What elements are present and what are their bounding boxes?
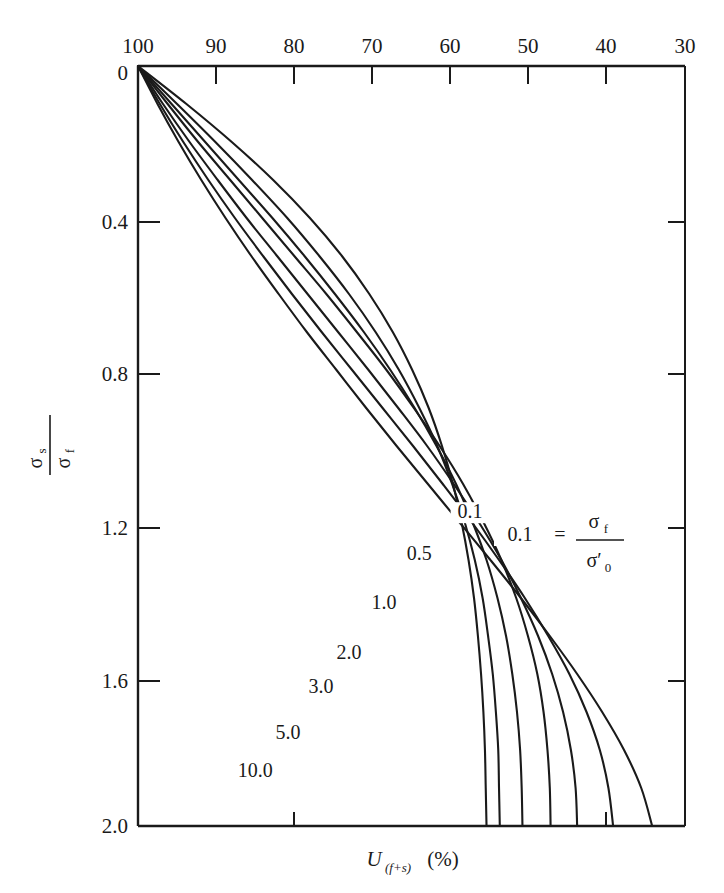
y-axis-ticks: [138, 222, 160, 681]
legend-equation: = σ f σ′ 0: [554, 510, 624, 575]
legend-value: 0.1: [508, 523, 533, 545]
y-tick-label: 0.4: [102, 210, 129, 234]
y-axis-ticks-right: [668, 222, 685, 681]
y-tick-label: 0.8: [102, 362, 128, 386]
curve-label-5-0: 5.0: [276, 721, 301, 743]
legend-equals: =: [554, 523, 565, 545]
curve-3-0: [138, 66, 522, 826]
curve-1-0: [138, 66, 577, 826]
curve-0-1: [138, 66, 652, 826]
curve-label-3-0: 3.0: [308, 675, 333, 697]
x-tick-label: 90: [206, 34, 227, 58]
legend-denominator-sub: 0: [605, 560, 612, 575]
curve-label-0-5: 0.5: [407, 542, 432, 564]
legend-numerator-sub: f: [604, 521, 609, 536]
y-axis-numerator: σ: [24, 457, 46, 468]
x-axis-title: U (f+s) (%): [366, 847, 458, 875]
legend-numerator: σ: [589, 510, 600, 532]
y-tick-labels: 0 0.4 0.8 1.2 1.6 2.0: [102, 61, 129, 838]
x-axis-ticks-bottom: [294, 812, 606, 826]
curve-5-0: [138, 66, 500, 826]
curve-label-0-1: 0.1: [458, 500, 483, 522]
figure-container: 100 90 80 70 60 50 40 30 0 0.4 0.8 1.2 1…: [0, 0, 724, 893]
x-tick-label: 70: [362, 34, 383, 58]
x-tick-labels: 100 90 80 70 60 50 40 30: [122, 34, 695, 58]
x-tick-label: 80: [284, 34, 305, 58]
y-tick-label: 1.6: [102, 669, 128, 693]
x-tick-label: 50: [518, 34, 539, 58]
y-axis-numerator-sub: s: [34, 448, 49, 453]
x-tick-label: 60: [440, 34, 461, 58]
x-tick-label: 30: [675, 34, 696, 58]
curve-2-0: [138, 66, 551, 826]
x-axis-title-unit: (%): [427, 847, 458, 871]
consolidation-chart: 100 90 80 70 60 50 40 30 0 0.4 0.8 1.2 1…: [0, 0, 724, 893]
x-tick-label: 100: [122, 34, 154, 58]
y-axis-title: σ s σ f: [24, 415, 77, 475]
curve-label-10-0: 10.0: [238, 759, 273, 781]
x-tick-label: 40: [596, 34, 617, 58]
curve-group: [138, 66, 652, 826]
y-tick-label: 1.2: [102, 516, 128, 540]
x-axis-title-sub: (f+s): [385, 860, 411, 875]
x-axis-ticks: [216, 66, 606, 84]
x-axis-title-symbol: U: [366, 847, 383, 871]
y-axis-denominator: σ: [52, 457, 74, 468]
legend-denominator: σ′: [586, 549, 601, 571]
y-axis-denominator-sub: f: [62, 448, 77, 453]
y-tick-label: 2.0: [102, 814, 128, 838]
curve-0-5: [138, 66, 613, 826]
curve-label-2-0: 2.0: [337, 641, 362, 663]
curve-10-0: [138, 66, 487, 826]
y-tick-label: 0: [118, 61, 129, 85]
curve-label-1-0: 1.0: [372, 591, 397, 613]
